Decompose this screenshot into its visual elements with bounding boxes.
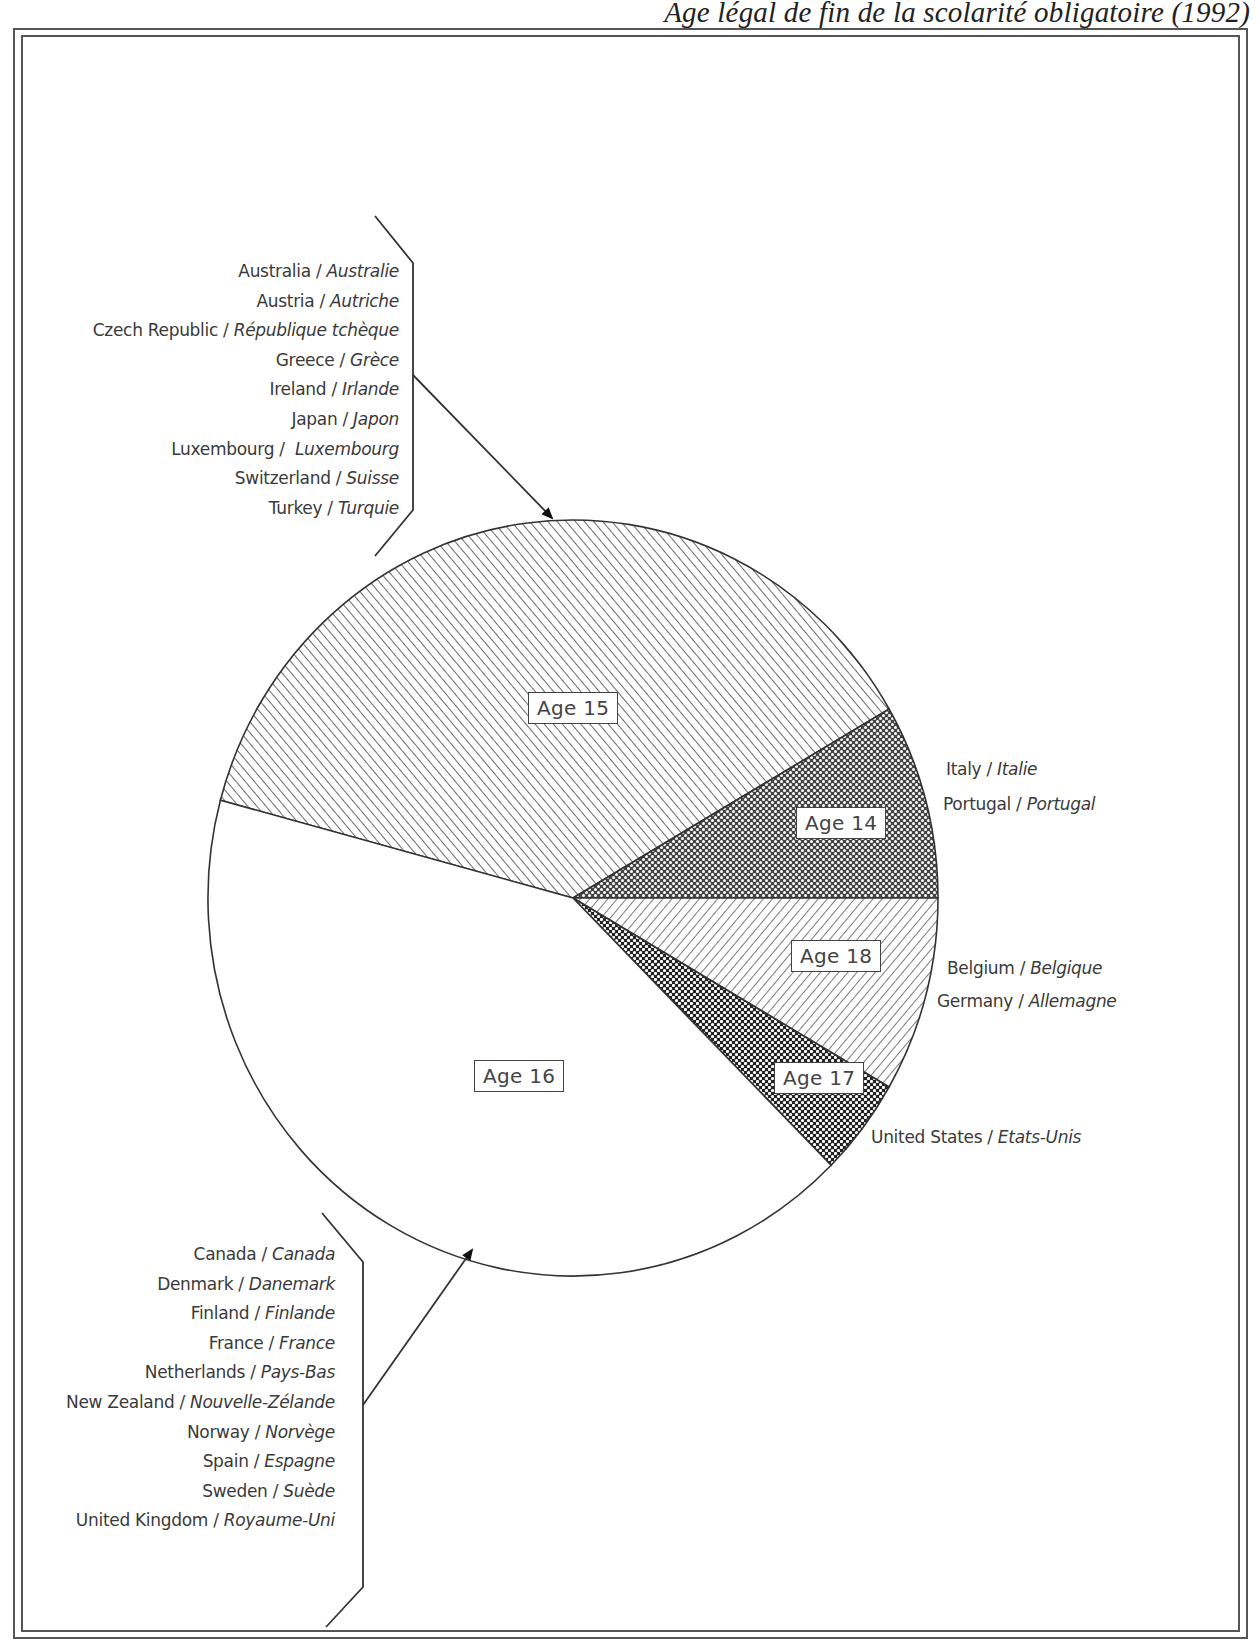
country-label: Sweden / Suède — [66, 1477, 335, 1507]
country-label: Canada / Canada — [66, 1240, 335, 1270]
country-label: Australia / Australie — [93, 257, 399, 287]
country-label: Switzerland / Suisse — [93, 464, 399, 494]
age18-country-belgium: Belgium / Belgique — [947, 954, 1102, 984]
age18-country-germany: Germany / Allemagne — [937, 987, 1117, 1017]
country-label: Ireland / Irlande — [93, 375, 399, 405]
country-label: Netherlands / Pays-Bas — [66, 1358, 335, 1388]
country-label: Japan / Japon — [93, 405, 399, 435]
country-label: Norway / Norvège — [66, 1418, 335, 1448]
age14-label: Age 14 — [796, 807, 886, 839]
country-label: Denmark / Danemark — [66, 1270, 335, 1300]
country-label: Greece / Grèce — [93, 346, 399, 376]
country-label: Czech Republic / République tchèque — [93, 316, 399, 346]
country-label: Turkey / Turquie — [93, 494, 399, 524]
age17-label: Age 17 — [774, 1062, 864, 1094]
age18-label: Age 18 — [791, 940, 881, 972]
age14-country-italy: Italy / Italie — [946, 755, 1037, 785]
country-label: Spain / Espagne — [66, 1447, 335, 1477]
age16-arrow — [363, 1250, 472, 1405]
age16-label: Age 16 — [474, 1060, 564, 1092]
country-label: France / France — [66, 1329, 335, 1359]
age15-country-list: Australia / Australie Austria / Autriche… — [93, 257, 399, 523]
country-label: New Zealand / Nouvelle-Zélande — [66, 1388, 335, 1418]
age14-country-portugal: Portugal / Portugal — [943, 790, 1095, 820]
country-label: Finland / Finlande — [66, 1299, 335, 1329]
country-label: United Kingdom / Royaume-Uni — [66, 1506, 335, 1536]
pie-slices — [208, 520, 938, 1276]
age17-country-us: United States / Etats-Unis — [871, 1123, 1081, 1153]
age15-label: Age 15 — [528, 692, 618, 724]
age16-country-list: Canada / Canada Denmark / Danemark Finla… — [66, 1240, 335, 1536]
age15-arrow — [413, 375, 552, 518]
country-label: Luxembourg / Luxembourg — [93, 435, 399, 465]
country-label: Austria / Autriche — [93, 287, 399, 317]
